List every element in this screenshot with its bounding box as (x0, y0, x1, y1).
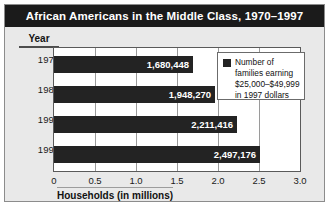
xtick-1.5: 1.5 (164, 175, 190, 187)
chart-figure: African Americans in the Middle Class, 1… (0, 0, 331, 210)
bar-1990: 2,211,416 (54, 116, 237, 133)
legend-text-line-4: in 1997 dollars (235, 90, 289, 100)
xtick-2.5: 2.5 (246, 175, 272, 187)
legend-text-line-2: families earning (235, 68, 293, 78)
legend-box: Number of families earning $25,000–$49,9… (217, 52, 305, 100)
bar-value-1970: 1,680,448 (54, 56, 193, 73)
title-band: African Americans in the Middle Class, 1… (5, 5, 324, 27)
xtick-0.5: 0.5 (82, 175, 108, 187)
x-axis-label: Households (in millions) (57, 187, 173, 202)
legend-swatch-icon (223, 59, 231, 67)
xtick-2.0: 2.0 (205, 175, 231, 187)
legend-text-line-1: Number of (235, 57, 274, 67)
bar-1980: 1,948,270 (54, 86, 215, 103)
bar-value-1997: 2,497,176 (54, 146, 260, 163)
legend-text-line-3: $25,000–$49,999 (235, 79, 300, 89)
xtick-3.0: 3.0 (287, 175, 313, 187)
plot-area: 1,680,448 1,948,270 2,211,416 2,497,176 … (53, 47, 301, 172)
chart-body-panel: Year 1970 1980 1990 1997 1,680,448 1,948… (5, 27, 324, 201)
bar-1997: 2,497,176 (54, 146, 260, 163)
xtick-1.0: 1.0 (123, 175, 149, 187)
year-column-header: Year (19, 33, 59, 48)
bar-value-1980: 1,948,270 (54, 86, 215, 103)
xtick-0: 0 (41, 175, 67, 187)
bar-1970: 1,680,448 (54, 56, 193, 73)
bar-value-1990: 2,211,416 (54, 116, 237, 133)
chart-title: African Americans in the Middle Class, 1… (5, 5, 324, 27)
